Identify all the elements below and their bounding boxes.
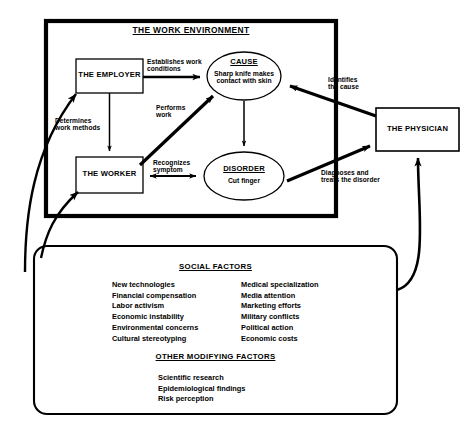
diagnoses-line-1: Diagnoses and: [321, 169, 380, 176]
edge-label-performs: Performs work: [156, 104, 185, 119]
list-item: Labor activism: [112, 301, 262, 312]
list-item: Military conflicts: [241, 312, 391, 323]
work-environment-title: THE WORK ENVIRONMENT: [46, 26, 336, 35]
recognizes-line-1: Recognizes: [153, 159, 190, 166]
list-item: Media attention: [241, 291, 391, 302]
disorder-detail-line-1: Cut finger: [204, 177, 284, 185]
edge-label-determines: Determines work methods: [55, 117, 100, 132]
list-item: Cultural stereotyping: [112, 334, 262, 345]
diagram-canvas: THE WORK ENVIRONMENT THE EMPLOYER THE WO…: [0, 0, 475, 440]
establishes-line-1: Establishes work: [147, 58, 202, 65]
other-modifying-factors-list: Scientific research Epidemiological find…: [158, 373, 338, 405]
identifies-line-1: Identifies: [328, 76, 359, 83]
disorder-node-text: DISORDER Cut finger: [204, 165, 284, 184]
edge-label-establishes: Establishes work conditions: [147, 58, 202, 73]
edge-label-recognizes: Recognizes symptom: [153, 159, 190, 174]
list-item: Scientific research: [158, 373, 338, 384]
cause-detail-line-2: contact with skin: [207, 77, 281, 85]
worker-box-label: THE WORKER: [76, 170, 143, 179]
list-item: Environmental concerns: [112, 323, 262, 334]
establishes-line-2: conditions: [147, 65, 202, 72]
edge-label-diagnoses: Diagnoses and treats the disorder: [321, 169, 380, 184]
edge-label-identifies: Identifies the cause: [328, 76, 359, 91]
diagnoses-line-2: treats the disorder: [321, 176, 380, 183]
recognizes-line-2: symptom: [153, 166, 190, 173]
cause-detail-line-1: Sharp knife makes: [207, 70, 281, 78]
performs-line-1: Performs: [156, 104, 185, 111]
performs-line-2: work: [156, 111, 185, 118]
list-item: Economic costs: [241, 334, 391, 345]
list-item: Medical specialization: [241, 280, 391, 291]
employer-box-label: THE EMPLOYER: [76, 71, 143, 80]
cause-node-text: CAUSE Sharp knife makes contact with ski…: [207, 58, 281, 85]
cause-title: CAUSE: [207, 58, 281, 67]
social-factors-column-right: Medical specialization Media attention M…: [241, 280, 391, 344]
list-item: Political action: [241, 323, 391, 334]
list-item: Marketing efforts: [241, 301, 391, 312]
disorder-title: DISORDER: [204, 165, 284, 174]
physician-box-label: THE PHYSICIAN: [376, 125, 459, 134]
identifies-line-2: the cause: [328, 83, 359, 90]
edge-social-to-physician: [397, 158, 420, 290]
list-item: Economic instability: [112, 312, 262, 323]
list-item: Epidemiological findings: [158, 384, 338, 395]
list-item: Risk perception: [158, 394, 338, 405]
social-factors-heading: SOCIAL FACTORS: [34, 263, 397, 272]
determines-line-1: Determines: [55, 117, 100, 124]
social-factors-column-left: New technologies Financial compensation …: [112, 280, 262, 344]
list-item: Financial compensation: [112, 291, 262, 302]
other-modifying-factors-heading: OTHER MODIFYING FACTORS: [34, 353, 397, 362]
list-item: New technologies: [112, 280, 262, 291]
determines-line-2: work methods: [55, 124, 100, 131]
